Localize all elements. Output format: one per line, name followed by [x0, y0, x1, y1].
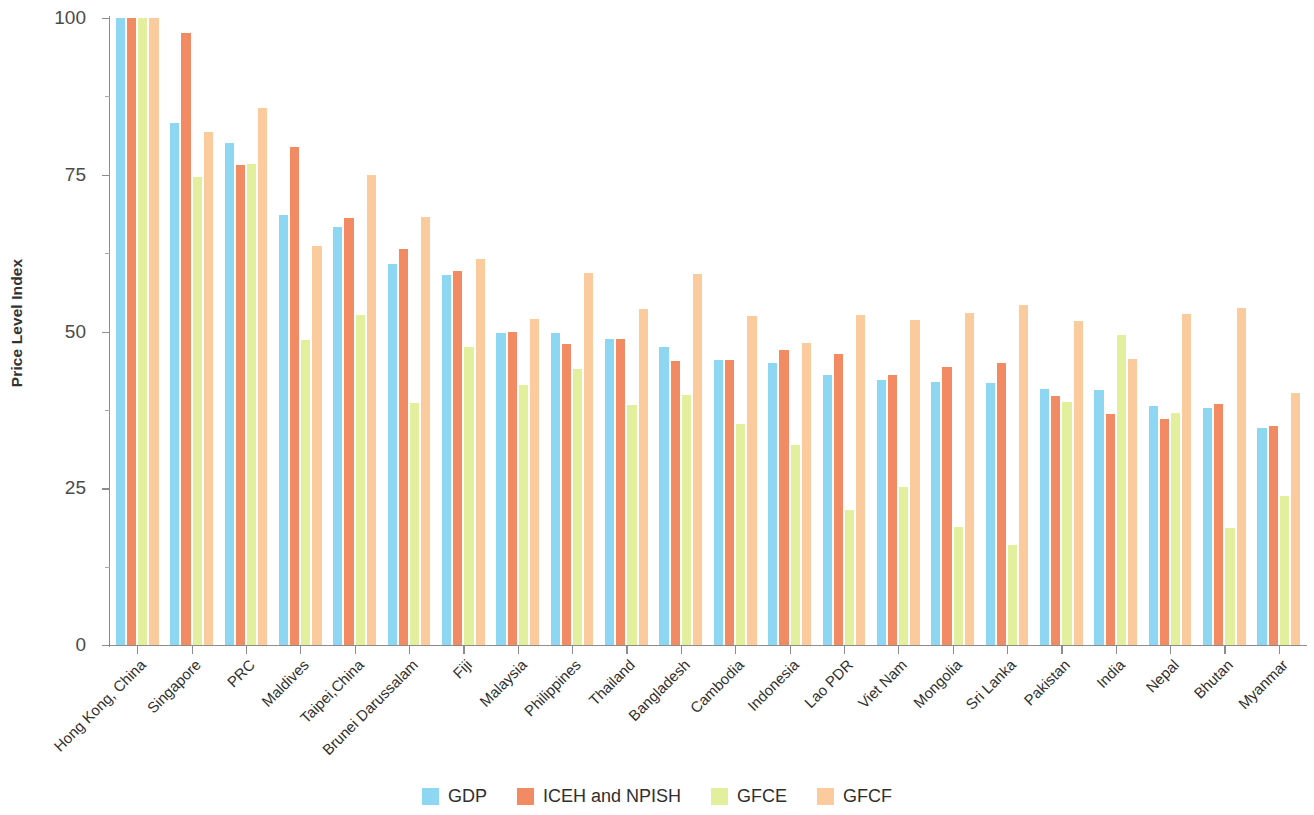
- y-axis-tick-label: 0: [26, 634, 86, 656]
- bar-group: [170, 18, 213, 645]
- bar: [997, 363, 1006, 645]
- x-axis-tick: [300, 646, 301, 654]
- x-axis-tick: [463, 646, 464, 654]
- bar: [627, 405, 636, 645]
- bar: [888, 375, 897, 645]
- x-axis-tick-label: Maldives: [258, 656, 312, 710]
- bar: [193, 177, 202, 645]
- x-axis-tick: [409, 646, 410, 654]
- x-axis-tick: [1116, 646, 1117, 654]
- bar: [877, 380, 886, 645]
- bar: [356, 315, 365, 645]
- x-axis-tick: [898, 646, 899, 654]
- bar: [236, 165, 245, 645]
- x-axis-tick: [1279, 646, 1280, 654]
- bar: [791, 445, 800, 645]
- legend-item[interactable]: GFCE: [711, 786, 787, 807]
- bar: [399, 249, 408, 645]
- bar: [388, 264, 397, 645]
- bar: [204, 132, 213, 646]
- bar-group: [333, 18, 376, 645]
- bar: [225, 143, 234, 645]
- y-axis-tick: [102, 175, 110, 176]
- bar: [779, 350, 788, 645]
- bar: [986, 383, 995, 645]
- legend-swatch-icon: [711, 788, 728, 805]
- x-axis-tick-label: Malaysia: [476, 656, 530, 710]
- x-axis-tick-label: Fiji: [450, 656, 476, 682]
- bar-group: [225, 18, 268, 645]
- bar: [736, 424, 745, 645]
- plot-area: [110, 18, 1306, 645]
- y-axis-tick: [102, 332, 110, 333]
- bar-group: [116, 18, 159, 645]
- bar: [725, 360, 734, 645]
- bar: [899, 487, 908, 645]
- bar: [1149, 406, 1158, 646]
- x-axis-tick-label: Viet Nam: [855, 656, 910, 711]
- bar: [747, 316, 756, 645]
- bar: [476, 259, 485, 645]
- bar: [1171, 413, 1180, 645]
- bar: [659, 347, 668, 645]
- bar: [1280, 496, 1289, 645]
- bar: [116, 18, 125, 645]
- bar: [639, 309, 648, 645]
- x-axis-tick: [137, 646, 138, 654]
- bar: [508, 332, 517, 646]
- bar: [496, 333, 505, 645]
- bar: [573, 369, 582, 646]
- bar: [1117, 335, 1126, 645]
- bar: [367, 175, 376, 645]
- bar: [768, 363, 777, 645]
- bar: [942, 367, 951, 645]
- bar: [344, 218, 353, 645]
- bar-group: [986, 18, 1029, 645]
- bar: [1128, 359, 1137, 645]
- bar-group: [442, 18, 485, 645]
- x-axis-tick: [1061, 646, 1062, 654]
- y-axis-tick: [102, 488, 110, 489]
- x-axis-tick-label: PRC: [224, 656, 258, 690]
- bar: [551, 333, 560, 645]
- x-axis-tick-label: Pakistan: [1021, 656, 1074, 709]
- bar: [1269, 426, 1278, 645]
- bar-group: [1257, 18, 1300, 645]
- bar: [802, 343, 811, 645]
- bar: [1074, 321, 1083, 645]
- bar: [616, 339, 625, 645]
- bar: [258, 108, 267, 645]
- bar: [965, 313, 974, 645]
- x-axis-tick-label: Brunei Darussalam: [319, 656, 421, 758]
- bar: [1008, 545, 1017, 645]
- bar: [823, 375, 832, 645]
- x-axis-tick-label: Nepal: [1142, 656, 1182, 696]
- bar: [464, 347, 473, 645]
- y-axis-tick-label: 25: [26, 477, 86, 499]
- bar-group: [1094, 18, 1137, 645]
- bar: [170, 123, 179, 645]
- bar: [693, 274, 702, 645]
- x-axis-tick: [246, 646, 247, 654]
- x-axis-tick: [518, 646, 519, 654]
- legend-item[interactable]: GDP: [422, 786, 487, 807]
- bar: [301, 340, 310, 645]
- bar: [247, 164, 256, 645]
- bar: [834, 354, 843, 645]
- bar: [1257, 428, 1266, 645]
- x-axis-tick: [790, 646, 791, 654]
- y-axis-tick: [102, 645, 110, 646]
- bar: [410, 403, 419, 645]
- bar: [931, 382, 940, 645]
- bar-group: [659, 18, 702, 645]
- bar: [1291, 393, 1300, 645]
- legend-item[interactable]: GFCF: [817, 786, 892, 807]
- bar-chart: Price Level Index 0255075100 Hong Kong, …: [0, 0, 1314, 815]
- bar: [453, 271, 462, 645]
- x-axis-tick: [572, 646, 573, 654]
- x-axis-tick-label: Thailand: [586, 656, 639, 709]
- bar-group: [1149, 18, 1192, 645]
- legend-item[interactable]: ICEH and NPISH: [517, 786, 681, 807]
- x-axis-tick-label: India: [1093, 656, 1128, 691]
- bar-group: [1040, 18, 1083, 645]
